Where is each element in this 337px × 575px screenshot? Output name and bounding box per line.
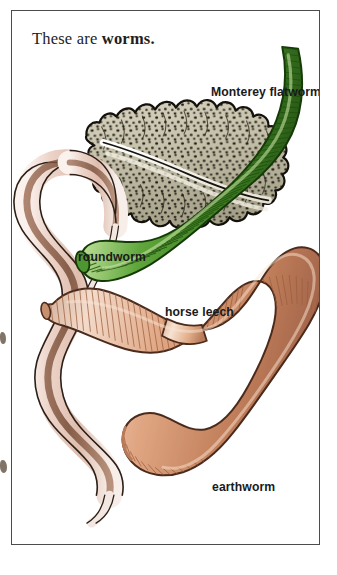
- page-edge-fragment: [0, 460, 7, 473]
- illustration-frame: These are worms. Monterey flatworm round…: [11, 10, 320, 545]
- label-horse-leech: horse leech: [165, 305, 234, 319]
- page-edge-fragment: [0, 332, 6, 344]
- page-title-emphasis: worms.: [102, 29, 155, 48]
- worms-plate-page: These are worms. Monterey flatworm round…: [0, 0, 337, 575]
- page-title: These are worms.: [32, 29, 155, 49]
- label-roundworm: roundworm: [78, 250, 146, 264]
- page-title-lead: These are: [32, 29, 102, 48]
- label-earthworm: earthworm: [212, 480, 275, 494]
- label-monterey-flatworm: Monterey flatworm: [211, 85, 320, 99]
